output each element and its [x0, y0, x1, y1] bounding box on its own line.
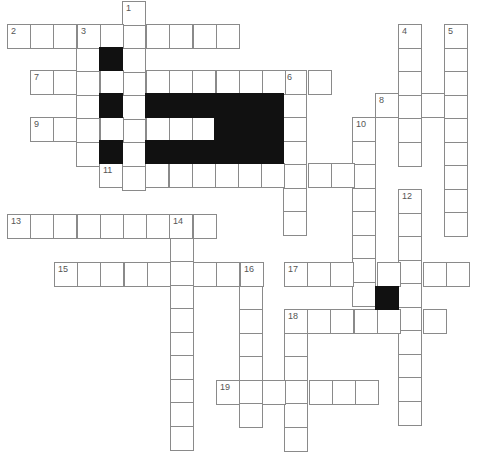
- letter-input[interactable]: [125, 263, 147, 286]
- crossword-cell[interactable]: [122, 142, 146, 167]
- letter-input[interactable]: [171, 356, 193, 379]
- crossword-cell[interactable]: 4: [398, 24, 422, 49]
- letter-input[interactable]: [171, 309, 193, 332]
- crossword-cell[interactable]: [239, 356, 263, 381]
- crossword-cell[interactable]: [100, 214, 124, 239]
- crossword-cell[interactable]: [284, 427, 308, 452]
- letter-input[interactable]: [193, 118, 215, 141]
- crossword-cell[interactable]: [398, 118, 422, 143]
- crossword-cell[interactable]: [446, 262, 470, 287]
- crossword-cell[interactable]: [398, 236, 422, 261]
- crossword-cell[interactable]: [283, 94, 307, 119]
- crossword-cell[interactable]: [352, 141, 376, 166]
- letter-input[interactable]: [240, 71, 262, 94]
- letter-input[interactable]: [284, 212, 306, 235]
- crossword-cell[interactable]: [398, 401, 422, 426]
- letter-input[interactable]: [399, 237, 421, 260]
- letter-input[interactable]: [399, 355, 421, 378]
- crossword-cell[interactable]: [352, 211, 376, 236]
- letter-input[interactable]: [170, 118, 192, 141]
- letter-input[interactable]: [171, 380, 193, 403]
- letter-input[interactable]: [78, 263, 100, 286]
- crossword-cell[interactable]: [169, 117, 193, 142]
- crossword-cell[interactable]: [284, 380, 308, 405]
- letter-input[interactable]: [285, 357, 307, 380]
- crossword-cell[interactable]: [444, 165, 468, 190]
- crossword-cell[interactable]: 18: [284, 309, 308, 334]
- crossword-cell[interactable]: [76, 48, 100, 73]
- crossword-cell[interactable]: [146, 117, 170, 142]
- crossword-cell[interactable]: [331, 163, 355, 188]
- letter-input[interactable]: [171, 239, 193, 262]
- crossword-cell[interactable]: 3: [77, 24, 101, 49]
- letter-input[interactable]: [399, 143, 421, 166]
- crossword-cell[interactable]: [146, 214, 170, 239]
- crossword-cell[interactable]: [444, 212, 468, 237]
- letter-input[interactable]: [399, 49, 421, 72]
- crossword-cell[interactable]: [308, 163, 332, 188]
- crossword-cell[interactable]: [122, 48, 146, 73]
- letter-input[interactable]: [399, 284, 421, 307]
- letter-input[interactable]: [399, 308, 421, 331]
- crossword-cell[interactable]: [122, 95, 146, 120]
- letter-input[interactable]: [399, 331, 421, 354]
- letter-input[interactable]: [124, 215, 146, 238]
- letter-input[interactable]: [170, 71, 192, 94]
- letter-input[interactable]: [171, 403, 193, 426]
- letter-input[interactable]: [285, 404, 307, 427]
- letter-input[interactable]: [77, 49, 99, 72]
- crossword-cell[interactable]: 9: [30, 117, 54, 142]
- crossword-cell[interactable]: [239, 403, 263, 428]
- letter-input[interactable]: [171, 262, 193, 285]
- crossword-cell[interactable]: [122, 72, 146, 97]
- crossword-cell[interactable]: [283, 164, 307, 189]
- crossword-cell[interactable]: [169, 163, 193, 188]
- letter-input[interactable]: [78, 215, 100, 238]
- crossword-cell[interactable]: [146, 24, 170, 49]
- letter-input[interactable]: [284, 118, 306, 141]
- letter-input[interactable]: [331, 310, 353, 333]
- letter-input[interactable]: [147, 25, 169, 48]
- crossword-cell[interactable]: [283, 211, 307, 236]
- letter-input[interactable]: [353, 283, 375, 306]
- letter-input[interactable]: [285, 334, 307, 357]
- crossword-cell[interactable]: [76, 118, 100, 143]
- letter-input[interactable]: [217, 25, 239, 48]
- letter-input[interactable]: [353, 189, 375, 212]
- crossword-cell[interactable]: [192, 163, 216, 188]
- letter-input[interactable]: [171, 427, 193, 450]
- crossword-cell[interactable]: [352, 282, 376, 307]
- crossword-cell[interactable]: [352, 164, 376, 189]
- crossword-cell[interactable]: 1: [122, 1, 146, 26]
- letter-input[interactable]: [284, 189, 306, 212]
- crossword-cell[interactable]: [262, 380, 286, 405]
- crossword-cell[interactable]: 7: [30, 70, 54, 95]
- letter-input[interactable]: [353, 259, 375, 282]
- letter-input[interactable]: [310, 381, 332, 404]
- crossword-cell[interactable]: [308, 70, 332, 95]
- letter-input[interactable]: [333, 381, 355, 404]
- letter-input[interactable]: [308, 263, 330, 286]
- crossword-cell[interactable]: [147, 262, 171, 287]
- crossword-cell[interactable]: [398, 213, 422, 238]
- crossword-cell[interactable]: 11: [99, 163, 123, 188]
- crossword-cell[interactable]: [398, 142, 422, 167]
- crossword-cell[interactable]: [398, 283, 422, 308]
- letter-input[interactable]: [424, 263, 446, 286]
- crossword-cell[interactable]: [192, 117, 216, 142]
- crossword-cell[interactable]: [216, 24, 240, 49]
- crossword-cell[interactable]: [352, 188, 376, 213]
- crossword-cell[interactable]: [100, 70, 124, 95]
- crossword-cell[interactable]: [100, 117, 124, 142]
- letter-input[interactable]: [194, 25, 216, 48]
- crossword-cell[interactable]: [169, 70, 193, 95]
- crossword-cell[interactable]: [398, 95, 422, 120]
- crossword-cell[interactable]: [170, 238, 194, 263]
- crossword-cell[interactable]: [332, 380, 356, 405]
- letter-input[interactable]: [123, 143, 145, 166]
- crossword-cell[interactable]: [145, 163, 169, 188]
- letter-input[interactable]: [240, 287, 262, 310]
- letter-input[interactable]: [263, 71, 285, 94]
- crossword-cell[interactable]: [377, 309, 401, 334]
- crossword-cell[interactable]: [283, 188, 307, 213]
